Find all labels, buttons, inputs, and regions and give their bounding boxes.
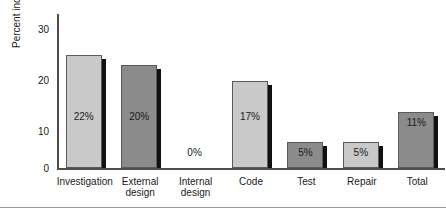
bar-group: 20%	[121, 14, 164, 168]
bar-value-label: 22%	[66, 112, 102, 122]
x-label-total: Total	[382, 176, 446, 187]
x-axis-category-labels: InvestigationExternaldesignInternaldesig…	[57, 176, 445, 204]
bar-chart-figure: Percent increase 30 20 10 0 22%20%0%17%5…	[0, 0, 446, 220]
y-tick-label-0: 0	[27, 164, 49, 174]
bar-value-label: 17%	[232, 112, 268, 122]
bar-group: 5%	[287, 14, 330, 168]
bar-value-label: 0%	[177, 148, 213, 158]
bar-value-label: 20%	[121, 112, 157, 122]
y-axis-title: Percent increase	[11, 0, 22, 48]
bar-value-label: 5%	[343, 148, 379, 158]
bar-value-label: 11%	[398, 118, 434, 128]
y-axis-line	[57, 14, 59, 170]
bar-group: 17%	[232, 14, 275, 168]
y-tick-label-10: 10	[27, 127, 49, 137]
footer-divider	[0, 207, 446, 208]
bar-group: 5%	[343, 14, 386, 168]
bar-code[interactable]	[232, 81, 268, 168]
x-axis-line	[57, 168, 445, 170]
y-axis-title-container: Percent increase	[12, 0, 26, 156]
bar-group: 22%	[66, 14, 109, 168]
bar-value-label: 5%	[287, 148, 323, 158]
bar-group: 0%	[177, 14, 220, 168]
y-tick-label-20: 20	[27, 76, 49, 86]
bar-group: 11%	[398, 14, 441, 168]
y-tick-label-30: 30	[27, 25, 49, 35]
plot-area: 30 20 10 0 22%20%0%17%5%5%11%	[57, 14, 445, 170]
